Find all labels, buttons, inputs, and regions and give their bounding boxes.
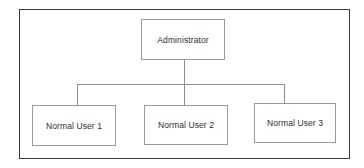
connector-root-trunk [184,60,185,84]
connector-to-user-3 [284,84,285,103]
node-normal-user-3: Normal User 3 [254,103,336,143]
node-normal-user-1-label: Normal User 1 [46,121,102,131]
node-administrator-label: Administrator [157,35,208,45]
node-normal-user-3-label: Normal User 3 [267,118,323,128]
connector-to-user-1 [77,84,78,105]
node-normal-user-2: Normal User 2 [144,105,228,145]
node-normal-user-1: Normal User 1 [32,105,116,146]
connector-to-user-2 [184,84,185,105]
diagram-canvas: Administrator Normal User 1 Normal User … [0,0,364,168]
node-administrator: Administrator [141,19,225,60]
connector-horizontal-bus [77,84,285,85]
node-normal-user-2-label: Normal User 2 [158,120,214,130]
